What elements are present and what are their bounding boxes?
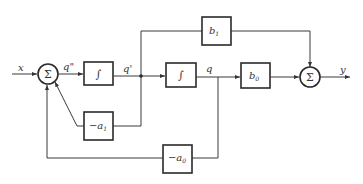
q-prime-to-a1-wire (113, 76, 141, 126)
q-label: q (206, 63, 212, 74)
sum-input-symbol: Σ (44, 68, 52, 81)
input-label: x (18, 62, 24, 73)
q-double-prime-label: q" (63, 61, 74, 72)
integrator-2-symbol: ∫ (178, 69, 184, 82)
a1-to-sum-wire (55, 82, 84, 126)
block-diagram: x Σ q" ∫ q' b1 ∫ q b0 Σ y −a1 −a0 (0, 0, 363, 184)
sum-output-symbol: Σ (306, 71, 314, 84)
q-prime-label: q' (123, 63, 132, 74)
output-label: y (339, 64, 346, 75)
b1-to-sum-wire (231, 31, 310, 67)
integrator-1-symbol: ∫ (96, 68, 102, 81)
q-to-a0-wire (192, 77, 218, 158)
